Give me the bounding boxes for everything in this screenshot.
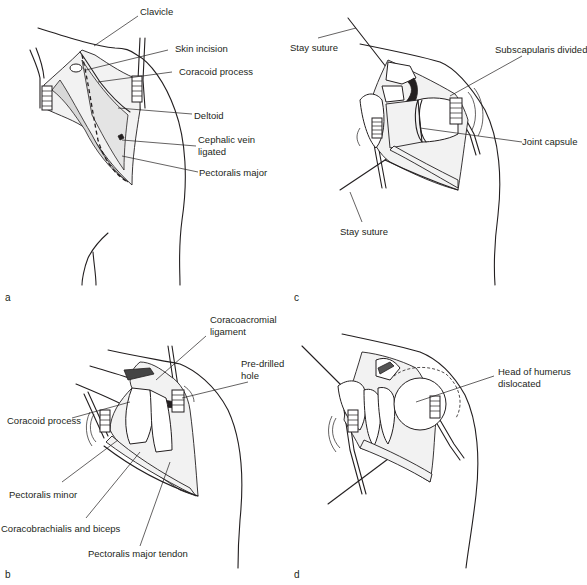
label-stay-suture-bottom: Stay suture <box>340 226 388 237</box>
label-coracobrachialis-and-biceps: Coracobrachialis and biceps <box>1 523 120 534</box>
panel-c: Stay suture Subscapularis divided Joint … <box>290 0 579 290</box>
label-deltoid: Deltoid <box>194 110 224 121</box>
panel-a: Clavicle Skin incision Coracoid process … <box>0 0 290 290</box>
label-pre-drilled: Pre-drilled <box>241 358 284 369</box>
panel-letter-b: b <box>5 569 11 580</box>
label-stay-suture-top: Stay suture <box>290 42 338 53</box>
label-clavicle: Clavicle <box>140 6 173 17</box>
label-pectoralis-major-tendon: Pectoralis major tendon <box>88 548 188 559</box>
label-cephalic-vein-ligated: ligated <box>198 146 226 157</box>
label-coracoid-process-b: Coracoid process <box>7 415 81 426</box>
label-coracoacromial-ligament: ligament <box>210 326 246 337</box>
label-pectoralis-major: Pectoralis major <box>199 167 267 178</box>
shoulder-incision-illustration <box>0 0 290 290</box>
panel-b: Coracoacromial ligament Pre-drilled hole… <box>0 290 290 585</box>
label-pectoralis-minor: Pectoralis minor <box>9 489 77 500</box>
label-skin-incision: Skin incision <box>175 43 228 54</box>
label-coracoid-process: Coracoid process <box>179 66 253 77</box>
label-head-of-humerus: Head of humerus <box>498 366 571 377</box>
label-joint-capsule: Joint capsule <box>522 136 577 147</box>
panel-letter-d: d <box>294 569 300 580</box>
humeral-head-dislocation-illustration <box>290 290 579 585</box>
label-subscapularis-divided: Subscapularis divided <box>495 44 587 55</box>
label-pre-drilled-hole: hole <box>241 370 259 381</box>
label-coracoacromial: Coracoacromial <box>210 314 277 325</box>
label-cephalic-vein: Cephalic vein <box>198 134 255 145</box>
label-head-of-humerus-dislocated: dislocated <box>498 378 541 389</box>
panel-d: Head of humerus dislocated d <box>290 290 579 585</box>
coracoid-osteotomy-illustration <box>0 290 290 585</box>
